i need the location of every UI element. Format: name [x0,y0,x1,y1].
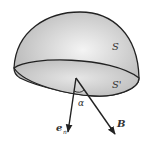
hemisphere-diagram: S S' α e n B [0,0,154,148]
label-b: B [116,118,125,129]
label-e: e [56,122,62,133]
label-s-prime: S' [112,79,122,90]
label-n-subscript: n [63,128,67,135]
label-alpha: α [78,98,84,108]
label-s: S [112,41,119,52]
